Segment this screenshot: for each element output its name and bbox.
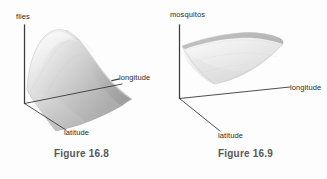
surface-mesh-mosquitos xyxy=(182,32,283,84)
surface-plot-mosquitos: mosquitos longitude latitude xyxy=(164,0,327,145)
figure-16-9: mosquitos longitude latitude Figure 16.9 xyxy=(164,0,327,179)
figure-16-8: flies longitude latitude Figure 16.8 xyxy=(0,0,163,179)
surface-mesh-flies xyxy=(27,30,132,131)
surface-plot-flies: flies longitude latitude xyxy=(0,0,163,145)
z-axis-label-mosquitos: mosquitos xyxy=(170,11,205,19)
y-axis-latitude-right xyxy=(180,99,221,132)
x-axis-longitude-right xyxy=(180,87,291,99)
x-axis-label-longitude-left: longitude xyxy=(119,74,150,82)
figure-caption-16-8: Figure 16.8 xyxy=(0,148,163,159)
scan-speck xyxy=(66,30,68,32)
x-axis-tick-left xyxy=(112,79,119,81)
z-axis-label-flies: flies xyxy=(16,13,30,21)
y-axis-label-latitude-left: latitude xyxy=(64,129,89,137)
figure-page: flies longitude latitude Figure 16.8 xyxy=(0,0,327,179)
x-axis-label-longitude-right: longitude xyxy=(290,84,321,92)
y-axis-label-latitude-right: latitude xyxy=(218,132,243,140)
figure-caption-16-9: Figure 16.9 xyxy=(164,148,327,159)
surface-plot-mosquitos-svg xyxy=(164,0,327,145)
